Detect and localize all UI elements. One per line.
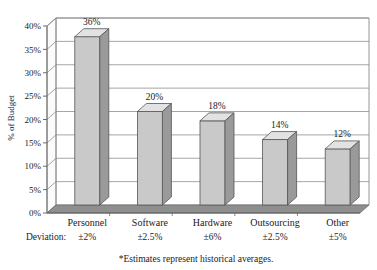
bar-side-face (162, 104, 171, 206)
deviation-label: ±2.5% (137, 232, 162, 242)
y-axis-title: % of Budget (6, 95, 16, 141)
deviation-values: ±2%±2.5%±6%±2.5%±5% (78, 232, 346, 242)
deviation-label: ±6% (204, 232, 222, 242)
chart-canvas: 0%5%10%15%20%25%30%35%40% % of Budget 36… (0, 0, 377, 270)
bar-column (137, 104, 171, 206)
bar-value-label: 36% (83, 17, 101, 27)
bar-side-face (350, 141, 359, 205)
chart-footnote: *Estimates represent historical averages… (119, 254, 274, 264)
y-tick-label: 0% (29, 208, 42, 218)
y-tick-label: 35% (25, 45, 42, 55)
bar-column (325, 141, 359, 205)
bar-value-label: 18% (208, 101, 226, 111)
deviation-row-header: Deviation: (26, 232, 66, 242)
bar-column (263, 132, 297, 205)
y-tick-label: 15% (25, 138, 42, 148)
bar-front-face (263, 140, 288, 205)
y-tick-label: 10% (25, 161, 42, 171)
category-label: Outsourcing (250, 217, 299, 228)
y-tick-label: 30% (25, 68, 42, 78)
y-tick-label: 20% (25, 115, 42, 125)
bar-front-face (137, 112, 162, 206)
bar-front-face (325, 149, 350, 205)
deviation-label: ±5% (329, 232, 347, 242)
y-tick-label: 25% (25, 91, 42, 101)
bar-value-label: 12% (333, 129, 351, 139)
bar-side-face (288, 132, 297, 205)
category-label: Hardware (193, 217, 233, 228)
y-tick-label: 5% (29, 185, 42, 195)
y-tick-label: 40% (25, 21, 42, 31)
category-label: Other (326, 217, 349, 228)
bar-side-face (225, 113, 234, 205)
deviation-label: ±2% (78, 232, 96, 242)
bar-column (200, 113, 234, 205)
category-label: Software (132, 217, 169, 228)
deviation-label: ±2.5% (263, 232, 288, 242)
category-label: Personnel (68, 217, 108, 228)
bar-front-face (75, 37, 100, 205)
bar-column (75, 29, 109, 205)
x-axis-category-labels: PersonnelSoftwareHardwareOutsourcingOthe… (68, 213, 350, 228)
y-axis-ticks: 0%5%10%15%20%25%30%35%40% (25, 21, 48, 218)
bar-chart-figure: 0%5%10%15%20%25%30%35%40% % of Budget 36… (0, 0, 377, 270)
floor-panel (47, 205, 369, 213)
bar-side-face (100, 29, 109, 205)
bar-value-label: 20% (146, 92, 164, 102)
bar-front-face (200, 121, 225, 205)
bar-value-label: 14% (271, 120, 289, 130)
